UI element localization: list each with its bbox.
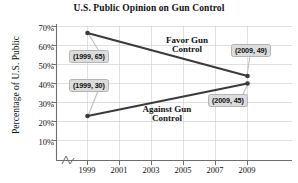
annotation-favor-2009: (2009, 49)	[231, 44, 271, 57]
series-label-against-gun-control: Against Gun Control	[128, 105, 206, 124]
data-point-against-1999	[85, 114, 90, 119]
plot-area	[0, 0, 298, 183]
series-label-favor-line2: Control	[152, 45, 222, 54]
data-point-against-2009	[245, 81, 250, 86]
chart-figure: U.S. Public Opinion on Gun Control Perce…	[0, 0, 298, 183]
annotation-favor-1999: (1999, 65)	[69, 50, 109, 63]
annotation-against-2009: (2009, 45)	[208, 94, 248, 107]
data-point-favor-2009	[245, 74, 250, 79]
annotation-against-1999: (1999, 30)	[69, 79, 109, 92]
series-label-favor-gun-control: Favor Gun Control	[152, 36, 222, 55]
series-label-against-line2: Control	[128, 114, 206, 123]
data-point-favor-1999	[85, 31, 90, 36]
axis-break-icon	[62, 156, 74, 164]
